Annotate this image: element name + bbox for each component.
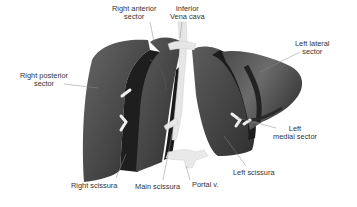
label-inferior-vena-cava: Inferior Vena cava [170,5,205,21]
label-main-scissura: Main scissura [135,183,180,191]
label-right-anterior-sector: Right anterior sector [112,5,156,21]
label-left-scissura: Left scissura [233,169,275,177]
label-portal-vein: Portal v. [192,181,219,189]
label-right-posterior-sector: Right posterior sector [20,72,68,88]
liver-diagram: Right anterior sector Inferior Vena cava… [0,0,357,207]
portal-vein-shape [166,150,208,168]
label-right-scissura: Right scissura [71,182,117,190]
label-left-medial-sector: Left medial sector [273,125,317,141]
liver-illustration [0,0,357,207]
label-left-lateral-sector: Left lateral sector [295,40,330,56]
